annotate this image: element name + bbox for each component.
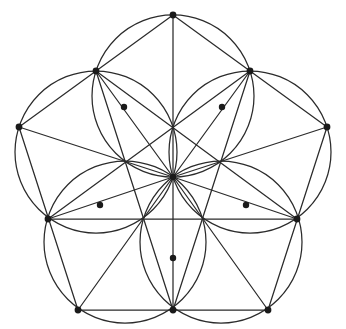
dot-center — [170, 174, 176, 180]
radius-to-mid-bottom-left — [48, 177, 173, 219]
dot-mid-bottom — [170, 307, 177, 314]
radius-to-vertex-bottom-left — [78, 177, 173, 310]
dot-mid-left-top — [93, 68, 100, 75]
dot-inner-lower-right — [243, 202, 249, 208]
chord-mid-bottom-to-mid-left-top — [96, 71, 173, 310]
radius-to-vertex-bottom-right — [173, 177, 268, 310]
rosette-circle-4 — [44, 161, 206, 323]
chord-mid-left-top-to-mid-right-bottom — [96, 71, 297, 219]
figure-root: Pentagon Rosette Construction Regular pe… — [0, 0, 346, 329]
chord-mid-top-right-to-mid-bottom — [173, 71, 250, 310]
dot-mid-bottom-left — [45, 216, 52, 223]
dot-inner-lower-left — [97, 202, 103, 208]
dot-vertex-top — [170, 12, 177, 19]
dot-mid-top-right — [247, 68, 254, 75]
dot-vertex-bottom-right — [265, 307, 272, 314]
dot-inner-upper-right — [219, 104, 225, 110]
rosette-circle-3 — [140, 161, 302, 323]
dot-vertex-left — [16, 124, 23, 131]
dot-vertex-right — [324, 124, 331, 131]
dot-inner-bottom — [170, 255, 176, 261]
geometry-canvas: Pentagon Rosette Construction Regular pe… — [0, 0, 346, 329]
radius-to-vertex-right — [173, 127, 327, 177]
radius-to-mid-right-bottom — [173, 177, 297, 219]
dot-inner-upper-left — [121, 104, 127, 110]
radius-to-vertex-left — [19, 127, 173, 177]
chord-mid-bottom-left-to-mid-top-right — [48, 71, 250, 219]
dot-vertex-bottom-left — [75, 307, 82, 314]
dot-mid-right-bottom — [294, 216, 301, 223]
